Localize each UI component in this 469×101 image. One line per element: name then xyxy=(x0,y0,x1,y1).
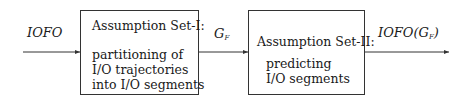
box2-line-2: I/O segments xyxy=(266,71,350,86)
box1-title: Assumption Set-I: xyxy=(92,18,205,33)
middle-label-main: G xyxy=(214,26,224,41)
box1-line-1: partitioning of xyxy=(92,47,205,62)
assumption-set-2-box: Assumption Set-II: predicting I/O segmen… xyxy=(248,10,365,95)
box2-body: predicting I/O segments xyxy=(266,56,350,86)
box1-line-2: I/O trajectories xyxy=(92,62,205,77)
box2-title: Assumption Set-II: xyxy=(257,34,375,49)
assumption-set-1-box: Assumption Set-I: partitioning of I/O tr… xyxy=(80,10,199,95)
input-label-text: IOFO xyxy=(27,25,62,40)
output-label: IOFO(GF) xyxy=(378,25,439,41)
output-label-main: G xyxy=(419,25,429,40)
output-label-suffix: ) xyxy=(434,25,439,40)
box2-line-1: predicting xyxy=(266,56,350,71)
box1-line-3: into I/O segments xyxy=(92,77,205,92)
input-label: IOFO xyxy=(27,25,62,40)
middle-label: GF xyxy=(214,26,229,42)
output-label-prefix: IOFO( xyxy=(378,25,419,40)
box1-body: partitioning of I/O trajectories into I/… xyxy=(92,47,205,92)
middle-label-sub: F xyxy=(224,34,229,42)
connector-arrows xyxy=(0,0,469,101)
